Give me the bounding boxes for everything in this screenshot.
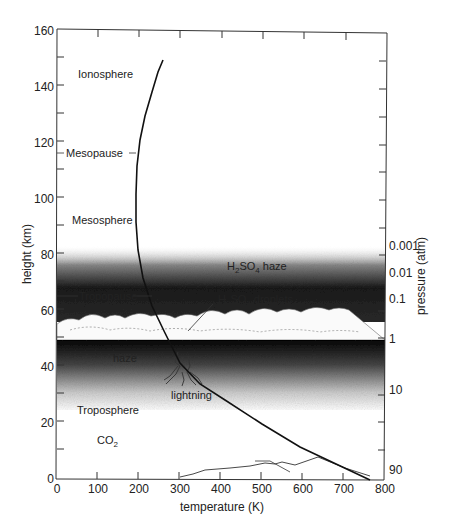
- y-axis-title: height (km): [20, 224, 34, 284]
- svg-text:100: 100: [34, 192, 54, 206]
- label-tropopause: Tropopause: [79, 290, 137, 302]
- label-co2: CO2: [97, 434, 119, 449]
- y-axis-tick-labels: 0 20 40 60 80 100 120 140 160: [34, 24, 54, 486]
- svg-text:0.1: 0.1: [389, 292, 406, 306]
- svg-text:0.01: 0.01: [389, 266, 413, 280]
- top-axis-ticks: [98, 30, 346, 40]
- svg-text:500: 500: [252, 482, 272, 496]
- x-axis-title: temperature (K): [180, 500, 264, 514]
- label-mesosphere: Mesosphere: [72, 214, 133, 226]
- x-axis-tick-labels: 0 100 200 300 400 500 600 700 800: [54, 482, 396, 496]
- svg-text:600: 600: [293, 482, 313, 496]
- svg-text:0: 0: [54, 482, 61, 496]
- lower-haze-band: [57, 340, 385, 410]
- svg-text:200: 200: [129, 482, 149, 496]
- svg-text:300: 300: [170, 482, 190, 496]
- venus-atmosphere-chart: 0 20 40 60 80 100 120 140 160 0 100 200 …: [0, 0, 451, 525]
- svg-text:20: 20: [41, 416, 55, 430]
- svg-text:60: 60: [41, 304, 55, 318]
- svg-text:100: 100: [88, 482, 108, 496]
- svg-text:400: 400: [211, 482, 231, 496]
- svg-text:700: 700: [334, 482, 354, 496]
- svg-text:80: 80: [41, 248, 55, 262]
- label-ionosphere: Ionosphere: [78, 68, 133, 80]
- svg-text:1: 1: [389, 332, 396, 346]
- svg-text:160: 160: [34, 24, 54, 38]
- y2-axis-title: pressure (atm): [414, 237, 428, 315]
- label-mesopause: Mesopause: [66, 147, 123, 159]
- svg-text:800: 800: [375, 482, 395, 496]
- svg-text:10: 10: [389, 383, 403, 397]
- svg-text:140: 140: [34, 80, 54, 94]
- label-troposphere: Troposphere: [77, 404, 139, 416]
- svg-text:120: 120: [34, 136, 54, 150]
- label-lightning: lightning: [171, 389, 212, 401]
- svg-text:40: 40: [41, 360, 55, 374]
- svg-text:90: 90: [389, 463, 403, 477]
- label-haze: haze: [113, 352, 137, 364]
